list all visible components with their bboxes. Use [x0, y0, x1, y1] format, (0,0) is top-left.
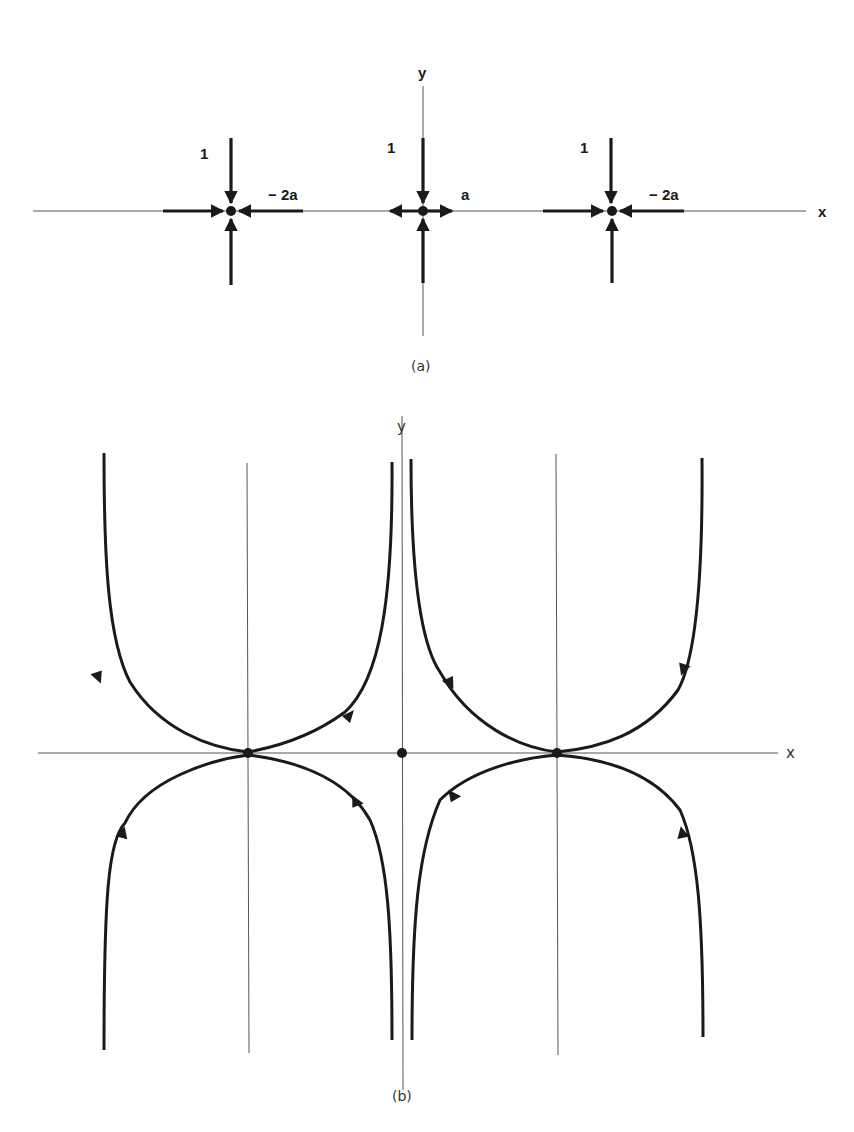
fixed-point-dot [607, 206, 617, 216]
x-axis-label-a: x [818, 203, 827, 220]
caption-b: (b) [392, 1088, 412, 1104]
caption-a: (a) [411, 358, 431, 374]
eigen-point-left: 1 − 2a [163, 138, 303, 285]
flow-arrow-icon [90, 670, 105, 685]
trajectory [557, 755, 703, 1037]
trajectory [248, 755, 392, 1040]
panel-a: x y 1 − 2a 1 a 1 [33, 64, 827, 374]
trajectory [412, 755, 557, 1040]
trajectory [411, 459, 557, 752]
trajectories-right-sink [411, 458, 703, 1040]
horizontal-eigenvalue-label: a [461, 186, 470, 203]
vertical-eigenvalue-label: 1 [387, 139, 395, 156]
y-axis-label-a: y [418, 64, 427, 81]
eigen-point-right: 1 − 2a [543, 138, 684, 283]
y-axis-label-b: y [397, 418, 406, 436]
phase-portrait-figure: x y 1 − 2a 1 a 1 [0, 0, 854, 1132]
origin-dot [397, 748, 407, 758]
trajectory [557, 458, 702, 752]
vertical-eigenvalue-label: 1 [580, 139, 588, 156]
trajectory [104, 453, 248, 752]
trajectory [248, 462, 392, 752]
fixed-point-dot [226, 206, 236, 216]
trajectory [104, 755, 248, 1050]
horizontal-eigenvalue-label: − 2a [649, 186, 679, 203]
panel-b: x y [38, 416, 795, 1104]
vertical-eigenvalue-label: 1 [200, 145, 208, 162]
horizontal-eigenvalue-label: − 2a [268, 186, 298, 203]
x-axis-label-b: x [786, 744, 795, 762]
sink-dot-right [552, 748, 562, 758]
fixed-point-dot [418, 206, 428, 216]
trajectories-left-sink [90, 453, 392, 1050]
sink-dot-left [243, 748, 253, 758]
